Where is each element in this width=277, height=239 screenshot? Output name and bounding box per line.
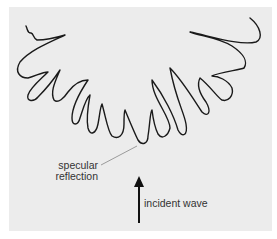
scattering-lobes-curve	[18, 18, 261, 143]
scattering-pattern-diagram	[0, 0, 277, 239]
incident-arrow-head	[134, 176, 144, 187]
specular-label-line2: reflection	[52, 171, 98, 182]
specular-leader-line	[101, 146, 137, 165]
specular-reflection-label: specular reflection	[52, 160, 98, 182]
incident-wave-label: incident wave	[144, 198, 208, 209]
